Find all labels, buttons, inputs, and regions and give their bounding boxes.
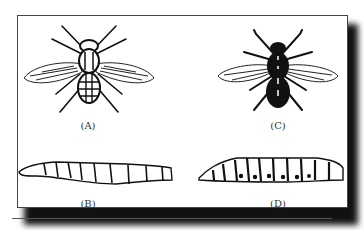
label-b: (B) [80, 198, 95, 209]
baseline-rule [12, 218, 332, 219]
larva-d-illustration [197, 150, 347, 186]
label-d: (D) [270, 198, 286, 209]
larva-b-illustration [16, 154, 174, 188]
fly-a-illustration [22, 14, 154, 118]
label-a: (A) [80, 120, 95, 131]
fly-c-illustration [214, 14, 342, 118]
label-c: (C) [270, 120, 285, 131]
